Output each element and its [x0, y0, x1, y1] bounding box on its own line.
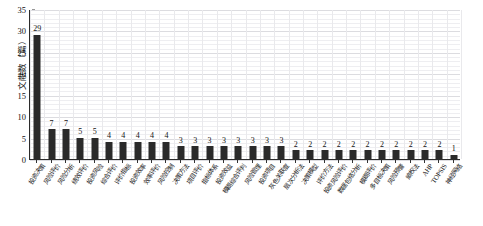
bar-slot: 2	[346, 10, 360, 159]
bar-slot: 3	[231, 10, 245, 159]
bar-value-label: 3	[265, 137, 269, 145]
bar-slot: 3	[202, 10, 216, 159]
y-tick-label: 0	[6, 156, 26, 165]
bar-slot: 2	[303, 10, 317, 159]
bar-slot: 3	[246, 10, 260, 159]
bar[interactable]	[364, 150, 371, 159]
bar-slot: 3	[174, 10, 188, 159]
y-tick-label: 10	[6, 113, 26, 122]
bar[interactable]	[292, 150, 299, 159]
bar[interactable]	[192, 146, 199, 159]
bar-value-label: 1	[452, 145, 456, 153]
bar-slot: 2	[432, 10, 446, 159]
bar[interactable]	[378, 150, 385, 159]
gridline-vertical	[461, 10, 462, 159]
bar[interactable]	[48, 129, 55, 159]
bar-value-label: 3	[193, 137, 197, 145]
bar-value-label: 3	[236, 137, 240, 145]
bar-value-label: 3	[222, 137, 226, 145]
bar-slot: 5	[87, 10, 101, 159]
bar-value-label: 4	[136, 132, 140, 140]
bar-value-label: 4	[150, 132, 154, 140]
bar-value-label: 3	[179, 137, 183, 145]
bar-slot: 2	[360, 10, 374, 159]
bar-slot: 2	[375, 10, 389, 159]
bar[interactable]	[393, 150, 400, 159]
bar[interactable]	[220, 146, 227, 159]
bar-value-label: 4	[121, 132, 125, 140]
bar[interactable]	[177, 146, 184, 159]
bar-slot: 2	[289, 10, 303, 159]
bar-value-label: 2	[409, 141, 413, 149]
bar[interactable]	[91, 138, 98, 159]
bar-value-label: 4	[107, 132, 111, 140]
bar[interactable]	[335, 150, 342, 159]
bar[interactable]	[149, 142, 156, 159]
bar[interactable]	[350, 150, 357, 159]
bar[interactable]	[62, 129, 69, 159]
bar-slot: 4	[116, 10, 130, 159]
bar[interactable]	[307, 150, 314, 159]
bar-value-label: 3	[279, 137, 283, 145]
bar[interactable]	[436, 150, 443, 159]
y-tick-label: 20	[6, 70, 26, 79]
bar-value-label: 7	[64, 120, 68, 128]
bar-value-label: 2	[423, 141, 427, 149]
bar-slot: 2	[332, 10, 346, 159]
y-tick-label: 35	[6, 6, 26, 15]
bar-slot: 3	[217, 10, 231, 159]
bar[interactable]	[321, 150, 328, 159]
bar[interactable]	[163, 142, 170, 159]
bar-value-label: 2	[323, 141, 327, 149]
bar[interactable]	[407, 150, 414, 159]
plot-area: 2977554444433333333222222222221	[29, 10, 460, 160]
bar-value-label: 4	[164, 132, 168, 140]
bar-value-label: 2	[437, 141, 441, 149]
y-tick-label: 5	[6, 134, 26, 143]
bar-value-label: 5	[78, 128, 82, 136]
bar-slot: 3	[274, 10, 288, 159]
bar-value-label: 2	[294, 141, 298, 149]
bar-value-label: 5	[93, 128, 97, 136]
bar-slot: 5	[73, 10, 87, 159]
bar-value-label: 2	[394, 141, 398, 149]
bar[interactable]	[34, 35, 41, 159]
bar-value-label: 7	[50, 120, 54, 128]
bar-slot: 7	[59, 10, 73, 159]
bar[interactable]	[235, 146, 242, 159]
bar-slot: 3	[260, 10, 274, 159]
bars-layer: 2977554444433333333222222222221	[30, 10, 460, 159]
bar[interactable]	[450, 155, 457, 159]
bar-slot: 4	[102, 10, 116, 159]
bar-slot: 29	[30, 10, 44, 159]
bar[interactable]	[106, 142, 113, 159]
bar[interactable]	[278, 146, 285, 159]
bar-value-label: 2	[380, 141, 384, 149]
bar[interactable]	[134, 142, 141, 159]
bar-value-label: 2	[366, 141, 370, 149]
y-tick-label: 15	[6, 91, 26, 100]
bar-value-label: 2	[351, 141, 355, 149]
bar-slot: 2	[317, 10, 331, 159]
bar-slot: 4	[145, 10, 159, 159]
bar[interactable]	[120, 142, 127, 159]
y-tick-label: 25	[6, 49, 26, 58]
bar[interactable]	[264, 146, 271, 159]
bar[interactable]	[206, 146, 213, 159]
bar[interactable]	[249, 146, 256, 159]
x-category-label: 熵权法	[405, 163, 420, 181]
bar-value-label: 29	[33, 25, 41, 33]
bar[interactable]	[77, 138, 84, 159]
bar-value-label: 3	[208, 137, 212, 145]
bar-slot: 4	[159, 10, 173, 159]
bar-value-label: 2	[308, 141, 312, 149]
y-tick-label: 30	[6, 27, 26, 36]
bar-value-label: 2	[337, 141, 341, 149]
bar-value-label: 3	[251, 137, 255, 145]
y-axis-tick-labels: 05101520253035	[6, 10, 26, 160]
x-axis-category-labels: 投资决策风险评价风险分析绩效评价投资风险综合评价评价指标投资效率效率评价风险控制…	[29, 163, 460, 226]
bar-slot: 1	[447, 10, 461, 159]
bar[interactable]	[422, 150, 429, 159]
bar-slot: 7	[44, 10, 58, 159]
bar-slot: 4	[131, 10, 145, 159]
